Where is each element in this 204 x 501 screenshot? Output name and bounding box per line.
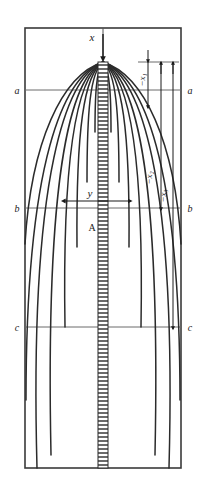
line-label-c-right: c xyxy=(188,322,193,333)
line-label-b-right: b xyxy=(188,203,193,214)
point-A-label: A xyxy=(88,222,96,233)
figure-container: x −x₁ −x₂ −x₃ y A a a b b xyxy=(0,0,204,501)
line-label-b-left: b xyxy=(15,203,20,214)
dimension-label-x3: −x₃ xyxy=(158,189,168,202)
y-dimension-label: y xyxy=(87,187,93,199)
line-label-a-right: a xyxy=(188,85,193,96)
dimension-label-x1: −x₁ xyxy=(137,73,147,86)
line-label-a-left: a xyxy=(15,85,20,96)
dimension-label-x2: −x₂ xyxy=(144,171,154,184)
x-axis-label: x xyxy=(89,31,95,43)
diagram-svg: x −x₁ −x₂ −x₃ y A a a b b xyxy=(0,0,204,501)
hatched-center-strip xyxy=(98,62,108,468)
line-label-c-left: c xyxy=(15,322,20,333)
